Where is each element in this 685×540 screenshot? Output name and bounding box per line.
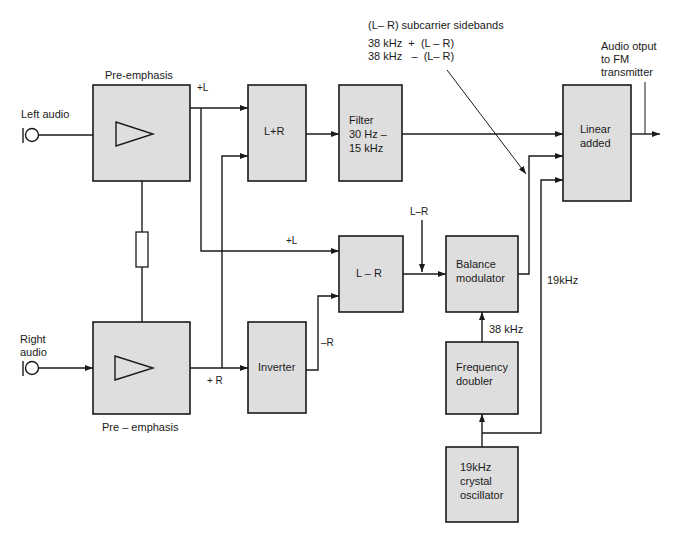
inverter-label: Inverter (258, 361, 295, 374)
output-label-line3: transmitter (601, 66, 653, 79)
sidebands-title: (L– R) subcarrier sidebands (368, 19, 504, 32)
plus-l-mid-label: +L (286, 234, 297, 247)
resistor-icon (136, 232, 148, 267)
preemphasis-right-block (93, 322, 190, 414)
oscillator-label-line1: 19kHz (460, 461, 491, 474)
sideband-lower: 38 kHz – (L– R) (368, 50, 454, 63)
difference-block-label: L – R (356, 267, 382, 280)
oscillator-label-line2: crystal (460, 475, 492, 488)
sum-block-label: L+R (264, 125, 285, 138)
19khz-label: 19kHz (547, 274, 578, 287)
output-label-line1: Audio otput (601, 40, 657, 53)
preemphasis-bottom-label: Pre – emphasis (102, 421, 178, 434)
right-microphone-icon (23, 361, 39, 376)
balance-modulator-label-line2: modulator (456, 272, 505, 285)
filter-label-line2: 30 Hz – (349, 128, 387, 141)
l-minus-r-label: L–R (410, 205, 428, 218)
minus-r-label: –R (321, 336, 334, 349)
output-label-line2: to FM (601, 53, 629, 66)
diagram-graphics (0, 0, 685, 540)
stereo-transmitter-diagram: Left audio Right audio Pre-emphasis Pre … (0, 0, 685, 540)
frequency-doubler-label-line2: doubler (456, 375, 493, 388)
sideband-upper: 38 kHz + (L – R) (368, 37, 454, 50)
plus-l-top-label: +L (197, 81, 208, 94)
right-audio-label-line2: audio (20, 346, 47, 359)
oscillator-label-line3: oscillator (460, 489, 503, 502)
frequency-doubler-label-line1: Frequency (456, 361, 508, 374)
preemphasis-top-label: Pre-emphasis (105, 69, 173, 82)
linear-adder-label-line2: added (580, 137, 611, 150)
left-audio-label: Left audio (21, 108, 69, 121)
linear-adder-label-line1: Linear (580, 123, 611, 136)
plus-r-label: + R (207, 374, 223, 387)
right-audio-label-line1: Right (20, 333, 46, 346)
preemphasis-left-block (93, 85, 190, 181)
left-microphone-icon (23, 128, 39, 143)
filter-label-line1: Filter (349, 114, 373, 127)
balance-modulator-label-line1: Balance (456, 258, 496, 271)
filter-label-line3: 15 kHz (349, 142, 383, 155)
38khz-label: 38 kHz (489, 323, 523, 336)
